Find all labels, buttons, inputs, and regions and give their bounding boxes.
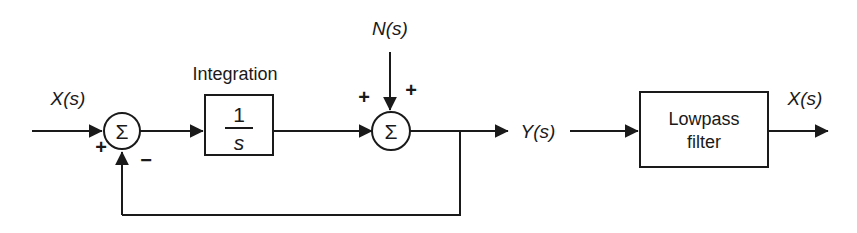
sign-sum2-left: + bbox=[358, 86, 370, 108]
integrator-caption: Integration bbox=[192, 64, 277, 84]
output-signal-label: X(s) bbox=[787, 88, 823, 109]
noise-signal-label: N(s) bbox=[372, 18, 408, 39]
output-signal-label-text: X(s) bbox=[787, 88, 823, 109]
mid-output-signal-label: Y(s) bbox=[521, 121, 556, 142]
summing-junction-1-symbol: Σ bbox=[116, 120, 129, 143]
noise-signal-label-text: N(s) bbox=[372, 18, 408, 39]
summing-junction-2-symbol: Σ bbox=[385, 120, 398, 143]
sign-sum1-feedback: − bbox=[140, 149, 152, 171]
lowpass-filter-label-line1: Lowpass bbox=[668, 109, 739, 129]
lowpass-filter-block bbox=[640, 92, 768, 167]
sign-sum2-top: + bbox=[405, 79, 417, 101]
integrator-denominator: s bbox=[234, 131, 245, 154]
block-diagram: Σ Σ + − + + Integration 1 s Lowpass filt… bbox=[0, 0, 857, 233]
integrator-numerator: 1 bbox=[233, 103, 245, 126]
lowpass-filter-label-line2: filter bbox=[687, 132, 721, 152]
block-diagram-canvas: Σ Σ + − + + Integration 1 s Lowpass filt… bbox=[0, 0, 857, 233]
sign-sum1-input: + bbox=[95, 136, 107, 158]
input-signal-label: X(s) bbox=[50, 88, 86, 109]
input-signal-label-text: X(s) bbox=[50, 88, 86, 109]
mid-output-signal-label-text: Y(s) bbox=[521, 121, 556, 142]
